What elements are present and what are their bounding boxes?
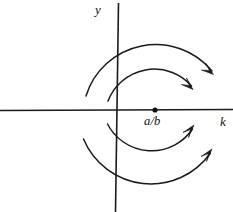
inner-upper-arc-arrowhead xyxy=(182,78,194,90)
outer-upper-arc xyxy=(86,45,212,96)
point-label-a-over-b: a/b xyxy=(144,115,161,128)
inner-lower-arc-arrowhead xyxy=(183,125,194,138)
vertical-axis-y xyxy=(116,3,119,212)
phase-plane-figure: y k a/b xyxy=(0,0,233,212)
k-axis-label: k xyxy=(220,115,226,128)
inner-upper-arc xyxy=(108,69,192,101)
figure-canvas xyxy=(0,0,233,212)
outer-lower-arc xyxy=(84,139,211,184)
outer-lower-arc-arrowhead xyxy=(201,149,212,162)
inner-lower-arc xyxy=(108,124,193,151)
y-axis-label: y xyxy=(95,3,101,16)
point-marker-a-over-b xyxy=(152,107,157,112)
